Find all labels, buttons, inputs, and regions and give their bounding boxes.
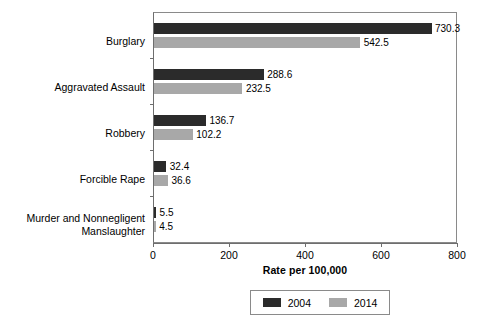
bar-value-aggravated-assault-2014: 232.5 [246, 83, 271, 94]
x-axis-tick-label-600: 600 [372, 249, 390, 261]
x-axis-tick-label-800: 800 [448, 249, 466, 261]
category-label-line: Forcible Rape [80, 173, 145, 186]
category-label-robbery: Robbery [105, 127, 145, 140]
bar-aggravated-assault-2014 [154, 83, 242, 94]
category-label-forcible-rape: Forcible Rape [80, 173, 145, 186]
bar-group-aggravated-assault: 288.6 232.5 [154, 59, 456, 105]
bar-value-forcible-rape-2014: 36.6 [171, 175, 190, 186]
category-label-line: Burglary [106, 35, 145, 48]
bar-group-forcible-rape: 32.4 36.6 [154, 151, 456, 197]
category-label-murder-manslaughter: Murder and Nonnegligent Manslaughter [27, 212, 146, 237]
x-axis-tick-400 [305, 243, 306, 247]
legend-swatch-icon-2014 [329, 298, 347, 307]
bar-value-robbery-2004: 136.7 [209, 115, 234, 126]
category-label-line: Murder and Nonnegligent [27, 212, 146, 225]
category-axis-labels: Burglary Aggravated Assault Robbery Forc… [0, 12, 149, 243]
legend-label-2014: 2014 [354, 297, 377, 309]
bar-forcible-rape-2014 [154, 175, 168, 186]
legend-swatch-icon-2004 [263, 298, 281, 307]
legend-label-2004: 2004 [288, 297, 311, 309]
category-label-line: Aggravated Assault [55, 81, 145, 94]
x-axis-tick-label-0: 0 [150, 249, 156, 261]
bar-forcible-rape-2004 [154, 161, 166, 172]
legend-item-2014: 2014 [329, 297, 377, 309]
bar-murder-manslaughter-2004 [154, 207, 156, 218]
x-axis-tick-label-200: 200 [220, 249, 238, 261]
x-axis-tick-label-400: 400 [296, 249, 314, 261]
chart-legend: 2004 2014 [250, 290, 390, 315]
bar-burglary-2014 [154, 37, 360, 48]
x-axis-title: Rate per 100,000 [153, 264, 457, 276]
bar-burglary-2004 [154, 23, 432, 34]
bar-group-robbery: 136.7 102.2 [154, 105, 456, 151]
bar-aggravated-assault-2004 [154, 69, 264, 80]
x-axis-tick-600 [381, 243, 382, 247]
x-axis-tick-800 [457, 243, 458, 247]
bar-group-burglary: 730.3 542.5 [154, 13, 456, 59]
x-axis-tick-0 [153, 243, 154, 247]
bar-value-burglary-2004: 730.3 [435, 23, 460, 34]
plot-area: 730.3 542.5 288.6 232.5 136.7 102.2 32.4 [153, 12, 457, 243]
bar-robbery-2004 [154, 115, 206, 126]
bar-value-murder-manslaughter-2004: 5.5 [160, 207, 174, 218]
legend-item-2004: 2004 [263, 297, 311, 309]
x-axis-tick-200 [229, 243, 230, 247]
bar-value-murder-manslaughter-2014: 4.5 [159, 221, 173, 232]
bar-murder-manslaughter-2014 [154, 221, 156, 232]
bar-value-aggravated-assault-2004: 288.6 [267, 69, 292, 80]
bar-value-robbery-2014: 102.2 [196, 129, 221, 140]
bar-value-burglary-2014: 542.5 [364, 37, 389, 48]
bar-robbery-2014 [154, 129, 193, 140]
category-label-burglary: Burglary [106, 35, 145, 48]
bar-chart: Burglary Aggravated Assault Robbery Forc… [0, 0, 486, 322]
category-label-aggravated-assault: Aggravated Assault [55, 81, 145, 94]
category-label-line: Manslaughter [27, 225, 146, 238]
bar-group-murder-manslaughter: 5.5 4.5 [154, 197, 456, 244]
category-label-line: Robbery [105, 127, 145, 140]
bar-value-forcible-rape-2004: 32.4 [170, 161, 189, 172]
